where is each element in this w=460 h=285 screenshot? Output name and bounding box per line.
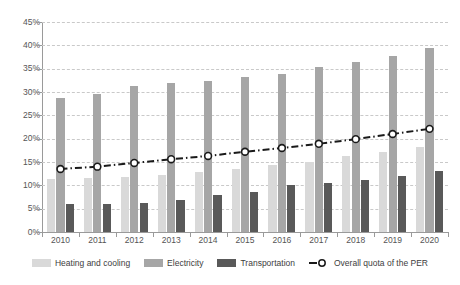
y-axis-tick-label: 20%: [0, 134, 40, 143]
legend-item-transportation[interactable]: Transportation: [217, 258, 295, 268]
y-axis-tick-label: 40%: [0, 41, 40, 50]
bar-transportation: [66, 204, 74, 232]
bar-electricity: [130, 86, 138, 232]
legend-swatch-heating: [32, 259, 51, 267]
bar-transportation: [324, 183, 332, 232]
x-axis-tick-label: 2018: [337, 236, 374, 245]
gridline: [42, 232, 448, 233]
y-axis-tick-label: 25%: [0, 111, 40, 120]
legend-item-heating[interactable]: Heating and cooling: [32, 258, 130, 268]
chart-container: 0%5%10%15%20%25%30%35%40%45% 2010: 13.5%…: [0, 0, 460, 285]
y-axis-tick-label: 45%: [0, 18, 40, 27]
x-axis-tick-label: 2017: [300, 236, 337, 245]
x-axis-tick-label: 2010: [42, 236, 79, 245]
bar-group: [342, 22, 369, 232]
bar-heating: [379, 152, 387, 232]
bar-transportation: [250, 192, 258, 232]
x-axis-tick: [448, 232, 449, 237]
x-axis-tick-label: 2014: [190, 236, 227, 245]
bar-group: [416, 22, 443, 232]
bar-group: [305, 22, 332, 232]
legend-label: Transportation: [240, 258, 295, 268]
bar-group: [232, 22, 259, 232]
x-axis-tick-label: 2013: [153, 236, 190, 245]
legend-label: Electricity: [167, 258, 203, 268]
bar-heating: [416, 147, 424, 232]
y-axis-tick-label: 0%: [0, 228, 40, 237]
bar-heating: [232, 169, 240, 232]
y-axis-tick-label: 5%: [0, 204, 40, 213]
chart-legend: Heating and coolingElectricityTransporta…: [0, 258, 460, 268]
y-axis-tick-label: 30%: [0, 88, 40, 97]
bar-group: [379, 22, 406, 232]
bar-transportation: [435, 171, 443, 232]
bar-heating: [268, 165, 276, 232]
legend-swatch-electricity: [144, 259, 163, 267]
bar-heating: [47, 179, 55, 232]
legend-item-electricity[interactable]: Electricity: [144, 258, 203, 268]
bar-heating: [158, 175, 166, 232]
bar-transportation: [361, 180, 369, 232]
bar-heating: [305, 162, 313, 232]
x-axis-tick-label: 2016: [263, 236, 300, 245]
bar-electricity: [167, 83, 175, 232]
x-axis-tick-label: 2011: [79, 236, 116, 245]
bar-electricity: [241, 77, 249, 232]
x-axis-tick-label: 2020: [411, 236, 448, 245]
bar-electricity: [352, 62, 360, 232]
bar-group: [268, 22, 295, 232]
bar-electricity: [278, 74, 286, 232]
legend-item-per[interactable]: Overall quota of the PER: [309, 258, 428, 268]
bar-electricity: [315, 67, 323, 232]
bar-group: [84, 22, 111, 232]
bar-transportation: [176, 200, 184, 232]
bar-electricity: [56, 98, 64, 232]
legend-label: Heating and cooling: [55, 258, 130, 268]
bar-transportation: [398, 176, 406, 232]
bar-group: [121, 22, 148, 232]
x-axis-tick-label: 2019: [374, 236, 411, 245]
x-axis-tick-label: 2015: [227, 236, 264, 245]
plot-area: [42, 22, 448, 232]
legend-swatch-transportation: [217, 259, 236, 267]
y-axis-tick-label: 10%: [0, 181, 40, 190]
bar-heating: [195, 172, 203, 232]
bar-transportation: [287, 185, 295, 232]
bar-electricity: [425, 48, 433, 232]
y-axis-tick-label: 15%: [0, 158, 40, 167]
bar-electricity: [389, 56, 397, 232]
x-axis-tick-label: 2012: [116, 236, 153, 245]
bar-transportation: [140, 203, 148, 232]
y-axis-tick-label: 35%: [0, 64, 40, 73]
bar-electricity: [204, 81, 212, 232]
bar-group: [47, 22, 74, 232]
bar-heating: [121, 177, 129, 232]
bar-transportation: [213, 195, 221, 232]
bar-group: [158, 22, 185, 232]
legend-label: Overall quota of the PER: [334, 258, 428, 268]
bar-heating: [342, 156, 350, 232]
bar-heating: [84, 178, 92, 232]
bar-group: [195, 22, 222, 232]
bar-electricity: [93, 94, 101, 232]
bar-transportation: [103, 204, 111, 232]
legend-line-marker-icon: [309, 259, 330, 267]
